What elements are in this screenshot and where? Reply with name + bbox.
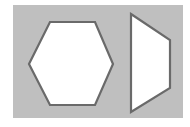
shapes-canvas bbox=[0, 0, 190, 127]
figure-root bbox=[0, 0, 190, 127]
